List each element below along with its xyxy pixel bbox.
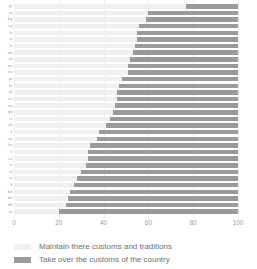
bar-segment-maintain [14, 143, 90, 147]
y-axis-label: at [0, 209, 14, 215]
bar-row: hu [0, 142, 257, 149]
bar-track [14, 56, 238, 63]
bar-track [14, 208, 238, 215]
stacked-bar [14, 50, 238, 54]
stacked-bar [14, 156, 238, 160]
stacked-bar [14, 90, 238, 94]
bar-segment-maintain [14, 77, 122, 81]
bar-segment-maintain [14, 44, 135, 48]
bar-segment-maintain [14, 196, 68, 200]
bar-segment-takeover [88, 150, 238, 154]
y-axis-label: hr [0, 83, 14, 89]
bar-row: se [0, 136, 257, 143]
bar-segment-maintain [14, 103, 115, 107]
bar-segment-takeover [106, 123, 238, 127]
bar-segment-maintain [14, 11, 148, 15]
bar-segment-maintain [14, 209, 59, 213]
bar-segment-takeover [119, 84, 238, 88]
stacked-bar [14, 57, 238, 61]
bar-track [14, 142, 238, 149]
legend-item-label: Maintain there customs and traditions [39, 241, 172, 252]
y-axis-label: dk [0, 202, 14, 208]
bar-segment-maintain [14, 130, 99, 134]
bar-track [14, 96, 238, 103]
y-axis-label: nl [0, 169, 14, 175]
y-axis-label: hu [0, 142, 14, 148]
bar-segment-takeover [117, 97, 238, 101]
bar-row: be [0, 189, 257, 196]
bar-row: cz [0, 155, 257, 162]
bar-row: at [0, 208, 257, 215]
bar-segment-takeover [128, 64, 238, 68]
y-axis-label: gr [0, 3, 14, 9]
bar-row: cy [0, 23, 257, 30]
bar-track [14, 162, 238, 169]
stacked-bar [14, 37, 238, 41]
bar-segment-takeover [68, 196, 238, 200]
bar-segment-takeover [77, 176, 238, 180]
y-axis-label: mt [0, 50, 14, 56]
bar-track [14, 30, 238, 37]
stacked-bar [14, 163, 238, 167]
bar-segment-takeover [117, 90, 238, 94]
stacked-bar [14, 11, 238, 15]
y-axis-label: si [0, 162, 14, 168]
bar-segment-takeover [90, 143, 238, 147]
chart-legend: Maintain there customs and traditionsTak… [14, 240, 257, 266]
stacked-bar [14, 190, 238, 194]
bar-segment-maintain [14, 31, 137, 35]
stacked-bar [14, 64, 238, 68]
y-axis-label: be [0, 189, 14, 195]
bar-track [14, 122, 238, 129]
x-axis-tick-label: 60 [145, 218, 152, 227]
stacked-bar [14, 196, 238, 200]
bar-track [14, 155, 238, 162]
y-axis-label: ua [0, 103, 14, 109]
bar-track [14, 36, 238, 43]
y-axis-label: cz [0, 156, 14, 162]
legend-item[interactable]: Maintain there customs and traditions [14, 240, 257, 253]
y-axis-label: lt [0, 129, 14, 135]
stacked-bar [14, 143, 238, 147]
y-axis-label: ie [0, 36, 14, 42]
bar-row: sk [0, 56, 257, 63]
bar-segment-takeover [86, 163, 238, 167]
stacked-bar [14, 117, 238, 121]
bar-segment-maintain [14, 156, 88, 160]
legend-swatch-takeover [14, 257, 31, 263]
bar-segment-maintain [14, 37, 137, 41]
bar-segment-takeover [139, 24, 238, 28]
bar-row: cv [0, 96, 257, 103]
bar-row: ee [0, 63, 257, 70]
bar-row: pt [0, 76, 257, 83]
bar-row: lt [0, 129, 257, 136]
stacked-bar [14, 97, 238, 101]
stacked-bar [14, 209, 238, 213]
bar-track [14, 16, 238, 23]
bar-track [14, 182, 238, 189]
bar-row: fi [0, 149, 257, 156]
bar-row: gr [0, 3, 257, 10]
stacked-bar [14, 137, 238, 141]
stacked-bar [14, 17, 238, 21]
bar-row: gb [0, 109, 257, 116]
y-axis-label: lv [0, 43, 14, 49]
bar-segment-maintain [14, 137, 97, 141]
bar-segment-maintain [14, 90, 117, 94]
bar-row: bg [0, 16, 257, 23]
stacked-bar [14, 4, 238, 8]
y-axis-label: se [0, 136, 14, 142]
legend-item[interactable]: Take over the customs of the country [14, 253, 257, 266]
stacked-bar [14, 176, 238, 180]
bar-segment-takeover [59, 209, 238, 213]
y-axis-label: rs [0, 116, 14, 122]
y-axis-label: pl [0, 89, 14, 95]
bar-segment-maintain [14, 176, 77, 180]
bar-segment-takeover [133, 50, 238, 54]
y-axis-label: sk [0, 122, 14, 128]
y-axis-label: ro [0, 10, 14, 16]
stacked-bar [14, 130, 238, 134]
bar-segment-maintain [14, 57, 130, 61]
bar-segment-maintain [14, 4, 186, 8]
bar-track [14, 69, 238, 76]
